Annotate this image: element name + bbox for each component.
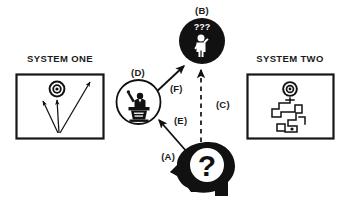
diagram-canvas: SYSTEM ONE SYSTEM TWO [0, 0, 346, 203]
system-two-panel: SYSTEM TWO [248, 53, 334, 139]
node-a-head-question: (A) ? [161, 142, 235, 196]
bullseye-icon-system-two [282, 81, 298, 97]
arrow-e-solid: (E) [159, 115, 187, 152]
system-one-panel: SYSTEM ONE [17, 53, 104, 139]
arrow-c-label: (C) [216, 99, 230, 110]
arrow-f-label: (F) [170, 83, 183, 94]
system-two-title: SYSTEM TWO [256, 53, 323, 64]
question-mark-glyph: ? [198, 149, 216, 182]
arrow-f-solid: (F) [154, 66, 184, 94]
arrow-e-label: (E) [174, 115, 187, 126]
node-d-speaker-podium: (D) [117, 67, 161, 124]
arrow-c-dashed: (C) [201, 70, 230, 142]
confusion-marks-glyph: ??? [194, 22, 211, 32]
node-a-label: (A) [161, 151, 175, 162]
system-one-system-two-diagram: SYSTEM ONE SYSTEM TWO [0, 0, 346, 203]
bullseye-icon-system-one [49, 81, 66, 98]
node-d-label: (D) [131, 67, 145, 78]
node-b-confused-person: (B) ??? [179, 5, 225, 64]
system-one-title: SYSTEM ONE [27, 53, 93, 64]
node-b-label: (B) [195, 5, 209, 16]
